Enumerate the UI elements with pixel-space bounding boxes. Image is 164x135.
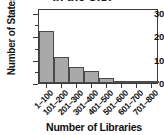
x-tick-mark [151, 84, 152, 88]
histogram-bar [69, 67, 84, 83]
y-tick-mark [33, 61, 38, 62]
plot-area [39, 10, 157, 83]
x-tick-mark [106, 84, 107, 88]
y-tick-label: 30 [138, 9, 164, 18]
x-tick-mark [121, 84, 122, 88]
x-tick-mark [136, 84, 137, 88]
y-tick-label: 20 [138, 32, 164, 41]
y-tick-mark [33, 84, 38, 85]
plot-frame [38, 9, 158, 84]
y-tick-label: 10 [138, 56, 164, 65]
histogram-bar [54, 57, 69, 83]
x-tick-mark [46, 84, 47, 88]
y-axis-title: Number of States [6, 0, 17, 78]
chart-title: in the U.S. [0, 0, 164, 1]
y-minor-tick-mark [35, 25, 38, 26]
histogram-bar [39, 31, 54, 83]
x-tick-mark [61, 84, 62, 88]
histogram-bar [114, 81, 129, 83]
y-minor-tick-mark [35, 72, 38, 73]
y-tick-mark [33, 37, 38, 38]
histogram-bar [99, 78, 114, 83]
y-minor-tick-mark [35, 49, 38, 50]
x-axis-title: Number of Libraries [26, 121, 162, 133]
x-tick-mark [76, 84, 77, 88]
histogram-figure: in the U.S. Number of States 0102030 1–1… [0, 0, 164, 135]
histogram-bar [84, 71, 99, 83]
y-tick-mark [33, 14, 38, 15]
x-tick-mark [91, 84, 92, 88]
